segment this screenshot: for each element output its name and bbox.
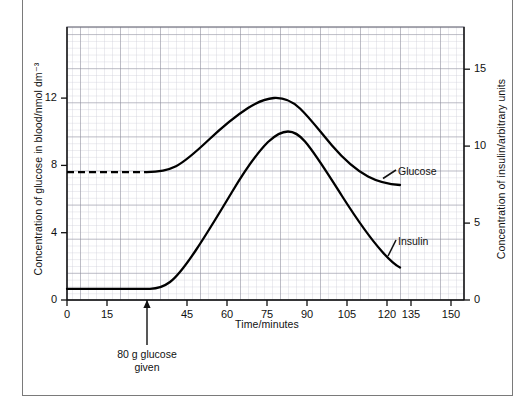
y-left-tick-0: 0: [31, 293, 57, 305]
x-tick-135: 135: [396, 308, 426, 320]
y-right-tick-15: 15: [474, 62, 500, 74]
x-tick-60: 60: [212, 308, 242, 320]
y-left-tick-12: 12: [31, 91, 57, 103]
x-tick-15: 15: [92, 308, 122, 320]
x-tick-45: 45: [172, 308, 202, 320]
plot-canvas: [0, 0, 532, 419]
x-tick-105: 105: [332, 308, 362, 320]
y-left-tick-8: 8: [31, 158, 57, 170]
x-axis-ticks: [67, 300, 451, 306]
annotation-line-2: given: [92, 361, 202, 374]
y-axis-left-ticks: [61, 98, 67, 300]
chart-root: Concentration of glucose in blood/nmol d…: [0, 0, 532, 419]
y-axis-right-ticks: [464, 69, 470, 300]
y-axis-right-title: Concentration of insulin/arbitrary units: [495, 39, 507, 299]
y-left-tick-4: 4: [31, 226, 57, 238]
glucose-dose-annotation: 80 g glucose given: [92, 348, 202, 374]
plot-grid: [67, 27, 464, 300]
x-tick-150: 150: [436, 308, 466, 320]
y-right-tick-10: 10: [474, 139, 500, 151]
y-right-tick-0: 0: [474, 293, 500, 305]
annotation-line-1: 80 g glucose: [92, 348, 202, 361]
y-right-tick-5: 5: [474, 216, 500, 228]
x-tick-0: 0: [52, 308, 82, 320]
x-tick-90: 90: [292, 308, 322, 320]
glucose-dose-arrow: [143, 300, 150, 345]
series-label-insulin: Insulin: [398, 235, 428, 247]
series-label-glucose: Glucose: [398, 165, 437, 177]
x-tick-75: 75: [252, 308, 282, 320]
